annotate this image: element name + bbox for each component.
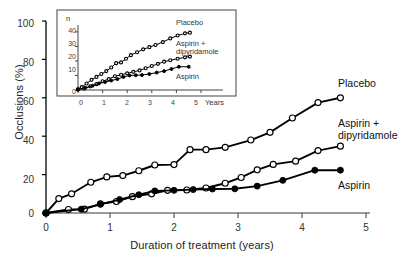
y-tick-label-0: 0 (8, 208, 34, 219)
inset-x-tick-label-4: 4 (168, 99, 178, 106)
y-tick-label-20: 20 (8, 174, 34, 185)
y-tick-label-100: 100 (8, 18, 34, 29)
inset-x-tick-label-2: 2 (122, 99, 132, 106)
x-tick-label-5: 5 (356, 222, 376, 233)
x-axis-title: Duration of treatment (years) (0, 239, 404, 251)
inset-series-label-placebo: Placebo (176, 19, 203, 28)
inset-x-tick-label-5: 5 (191, 99, 201, 106)
x-tick-label-3: 3 (228, 222, 248, 233)
inset-x-tick-label-0: 0 (76, 99, 86, 106)
inset-y-tick-label-0: 0 (62, 88, 76, 95)
inset-x-axis-title: Years (205, 99, 224, 108)
inset-x-tick-label-1: 1 (99, 99, 109, 106)
inset-y-tick-label-30: 30 (62, 40, 76, 47)
inset-y-tick-label-20: 20 (62, 53, 76, 60)
inset-y-tick-label-40: 40 (62, 27, 76, 34)
inset-series-label-aspirin-dipyridamole-line2: dipyridamole (176, 48, 219, 57)
series-label-aspirin-dipyridamole-line1: Aspirin + (338, 118, 379, 130)
x-tick-label-1: 1 (100, 222, 120, 233)
x-tick-label-2: 2 (164, 222, 184, 233)
x-tick-label-0: 0 (36, 222, 56, 233)
series-label-aspirin-dipyridamole-line2: dipyridamole (338, 130, 398, 142)
inset-y-tick-label-10: 10 (62, 66, 76, 73)
inset-x-tick-label-3: 3 (145, 99, 155, 106)
x-tick-label-4: 4 (292, 222, 312, 233)
inset-series-label-aspirin: Aspirin (176, 73, 199, 82)
inset-y-axis-title: n (66, 15, 70, 24)
y-tick-label-60: 60 (8, 96, 34, 107)
y-tick-label-80: 80 (8, 57, 34, 68)
figure-occlusions-over-time: Occlusions (%) Duration of treatment (ye… (0, 0, 404, 259)
series-label-aspirin: Aspirin (338, 180, 370, 192)
series-label-placebo: Placebo (338, 78, 376, 90)
y-tick-label-40: 40 (8, 135, 34, 146)
main-series-group (43, 95, 343, 216)
